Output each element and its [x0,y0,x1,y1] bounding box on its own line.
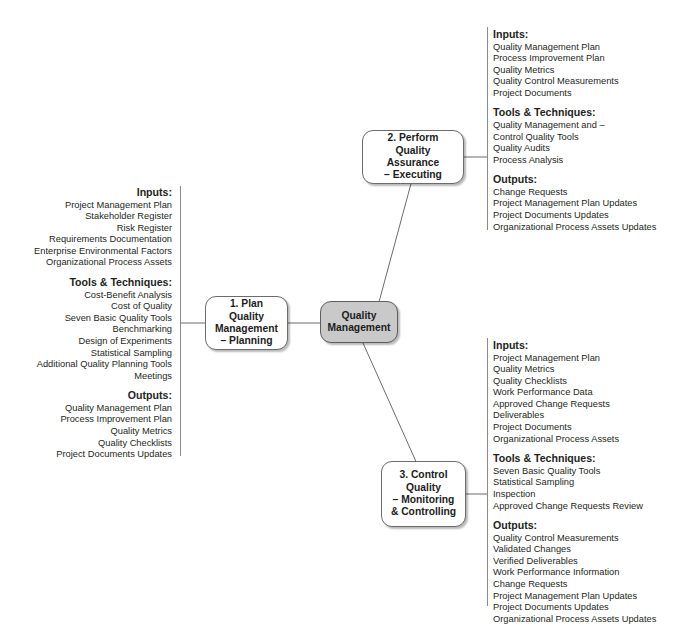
panel-item: Cost of Quality [0,301,172,313]
panel-item: Organizational Process Assets [493,434,683,446]
node-perform-quality-assurance-label: 2. Perform QualityAssurance– Executing [363,132,463,182]
node-label-line: Management [324,322,395,334]
panel-item: Quality Metrics [493,65,683,77]
node-label-line: 3. Control [387,469,460,481]
panel-item: Seven Basic Quality Tools [0,313,172,325]
panel-section-heading: Outputs: [493,173,683,187]
panel-item: Quality Control Measurements [493,533,683,545]
panel-item: Project Management Plan [493,353,683,365]
panel-item: Quality Checklists [493,376,683,388]
panel-item: Approved Change Requests Review [493,501,683,513]
panel-item: Meetings [0,371,172,383]
panel-item: Quality Audits [493,143,683,155]
node-label-line: Management [210,323,283,335]
panel-item: Enterprise Environmental Factors [0,246,172,258]
node-label-line: Quality [324,310,395,322]
panel-item: Process Analysis [493,155,683,167]
node-control-quality-label: 3. ControlQuality– Monitoring& Controlli… [383,469,464,519]
panel-item: Quality Management and – [493,120,683,132]
rule-top-right-panel [487,27,488,230]
panel-item: Process Improvement Plan [0,414,172,426]
connector-center-to-node2 [379,180,412,302]
panel-section-heading: Tools & Techniques: [493,106,683,120]
panel-item: Benchmarking [0,324,172,336]
panel-item: Requirements Documentation [0,234,172,246]
panel-item: Project Management Plan Updates [493,591,683,603]
panel-item: Work Performance Data [493,387,683,399]
diagram-canvas: Inputs:Project Management PlanStakeholde… [0,0,683,639]
panel-item: Seven Basic Quality Tools [493,466,683,478]
node-label-line: Quality [387,482,460,494]
panel-item: Organizational Process Assets Updates [493,614,683,626]
panel-item: Organizational Process Assets [0,257,172,269]
node-label-line: – Executing [367,169,459,181]
panel-section-heading: Tools & Techniques: [493,452,683,466]
panel-section-heading: Tools & Techniques: [0,276,172,290]
panel-perform-quality-assurance: Inputs:Quality Management PlanProcess Im… [493,28,683,233]
panel-section-heading: Inputs: [493,28,683,42]
panel-item: Work Performance Information [493,567,683,579]
node-plan-quality-management[interactable]: 1. Plan QualityManagement– Planning [205,296,288,350]
connector-center-to-node3 [363,343,418,466]
panel-item: Design of Experiments [0,336,172,348]
node-label-line: – Planning [210,335,283,347]
panel-item: Risk Register [0,223,172,235]
panel-item: Statistical Sampling [493,477,683,489]
panel-item: Project Management Plan [0,200,172,212]
node-control-quality[interactable]: 3. ControlQuality– Monitoring& Controlli… [381,461,466,527]
node-quality-management[interactable]: QualityManagement [320,301,398,343]
node-label-line: 1. Plan Quality [210,298,283,323]
panel-item: Process Improvement Plan [493,53,683,65]
node-label-line: Assurance [367,157,459,169]
panel-item: Project Documents Updates [493,602,683,614]
node-perform-quality-assurance[interactable]: 2. Perform QualityAssurance– Executing [362,130,464,184]
panel-item: Project Documents [493,422,683,434]
panel-item: Change Requests [493,579,683,591]
panel-section-heading: Outputs: [0,389,172,403]
node-quality-management-label: QualityManagement [320,310,399,335]
panel-item: Project Documents [493,88,683,100]
panel-item: Validated Changes [493,544,683,556]
panel-item: Additional Quality Planning Tools [0,359,172,371]
panel-section-heading: Outputs: [493,519,683,533]
rule-left-panel [180,186,181,456]
rule-bottom-right-panel [487,338,488,606]
panel-item: Change Requests [493,187,683,199]
panel-item: Project Management Plan Updates [493,198,683,210]
panel-item: Quality Metrics [493,364,683,376]
panel-item: Quality Management Plan [493,42,683,54]
panel-item: Stakeholder Register [0,211,172,223]
panel-item: Statistical Sampling [0,348,172,360]
panel-item: Project Documents Updates [0,449,172,461]
panel-item: Quality Management Plan [0,403,172,415]
panel-item: Quality Checklists [0,438,172,450]
panel-section-heading: Inputs: [0,186,172,200]
panel-item: Deliverables [493,410,683,422]
panel-item: Verified Deliverables [493,556,683,568]
panel-item: Approved Change Requests [493,399,683,411]
panel-item: Cost-Benefit Analysis [0,290,172,302]
node-plan-quality-management-label: 1. Plan QualityManagement– Planning [206,298,287,348]
panel-section-heading: Inputs: [493,339,683,353]
panel-item: Project Documents Updates [493,210,683,222]
node-label-line: & Controlling [387,506,460,518]
panel-plan-quality-management: Inputs:Project Management PlanStakeholde… [0,186,172,461]
panel-item: Organizational Process Assets Updates [493,222,683,234]
panel-item: Inspection [493,489,683,501]
panel-item: Quality Control Measurements [493,76,683,88]
panel-item: Quality Metrics [0,426,172,438]
node-label-line: – Monitoring [387,494,460,506]
panel-item: Control Quality Tools [493,132,683,144]
node-label-line: 2. Perform Quality [367,132,459,157]
panel-control-quality: Inputs:Project Management PlanQuality Me… [493,339,683,625]
